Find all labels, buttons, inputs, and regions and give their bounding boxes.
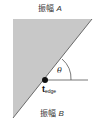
edge-point-sub: edge — [45, 88, 56, 94]
region-b-var: B — [59, 109, 64, 118]
region-a-label: 振幅 A — [38, 2, 62, 13]
region-b-text: 振幅 — [40, 109, 56, 118]
edge-point — [42, 77, 48, 83]
edge-point-label: tedge — [42, 84, 56, 94]
angle-label: θ — [57, 66, 62, 75]
angle-arc — [62, 59, 71, 80]
region-a-var: A — [57, 4, 62, 13]
region-a-text: 振幅 — [38, 4, 54, 13]
region-b-label: 振幅 B — [40, 107, 64, 118]
